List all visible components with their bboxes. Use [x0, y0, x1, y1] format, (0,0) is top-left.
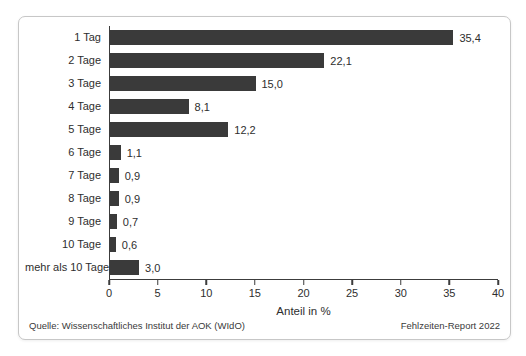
category-label: 3 Tage: [25, 72, 109, 95]
x-tick-label: 15: [249, 287, 261, 299]
bar-chart: 1 Tag35,42 Tage22,13 Tage15,04 Tage8,15 …: [19, 17, 510, 320]
x-tick: [449, 280, 451, 285]
axis-spacer: [25, 279, 109, 304]
bar-track: 3,0: [109, 256, 498, 279]
x-tick: [206, 280, 208, 285]
source-text: Quelle: Wissenschaftliches Institut der …: [29, 320, 245, 331]
bar-track: 22,1: [109, 49, 498, 72]
x-tick-label: 30: [395, 287, 407, 299]
bar: [110, 214, 117, 229]
x-tick: [303, 280, 305, 285]
value-label: 8,1: [195, 101, 210, 113]
x-tick-label: 40: [492, 287, 504, 299]
x-tick-label: 25: [346, 287, 358, 299]
category-label: mehr als 10 Tage: [25, 256, 109, 279]
value-label: 1,1: [127, 147, 142, 159]
bar-track: 0,6: [109, 233, 498, 256]
bar-rows: 1 Tag35,42 Tage22,13 Tage15,04 Tage8,15 …: [25, 26, 498, 279]
x-axis-title: Anteil in %: [109, 305, 498, 317]
bar: [110, 168, 119, 183]
x-tick: [157, 280, 159, 285]
category-label: 8 Tage: [25, 187, 109, 210]
x-axis: 0510152025303540: [109, 279, 498, 304]
x-axis-title-row: Anteil in %: [25, 304, 498, 317]
bar-track: 35,4: [109, 26, 498, 49]
category-label: 4 Tage: [25, 95, 109, 118]
value-label: 12,2: [234, 124, 255, 136]
bar-track: 15,0: [109, 72, 498, 95]
report-text: Fehlzeiten-Report 2022: [401, 320, 500, 331]
category-label: 9 Tage: [25, 210, 109, 233]
bar-track: 8,1: [109, 95, 498, 118]
x-tick: [254, 280, 256, 285]
x-tick: [400, 280, 402, 285]
category-label: 6 Tage: [25, 141, 109, 164]
x-tick: [497, 280, 499, 285]
bar-track: 1,1: [109, 141, 498, 164]
x-tick-label: 5: [155, 287, 161, 299]
bar-track: 0,7: [109, 210, 498, 233]
bar-track: 12,2: [109, 118, 498, 141]
value-label: 0,9: [125, 170, 140, 182]
x-axis-row: 0510152025303540: [25, 279, 498, 304]
value-label: 3,0: [145, 262, 160, 274]
category-label: 1 Tag: [25, 26, 109, 49]
x-tick-label: 35: [443, 287, 455, 299]
caption-bar: Quelle: Wissenschaftliches Institut der …: [19, 320, 510, 339]
bar: [110, 122, 228, 137]
bar-track: 0,9: [109, 187, 498, 210]
bar: [110, 30, 453, 45]
x-tick: [351, 280, 353, 285]
bar-track: 0,9: [109, 164, 498, 187]
value-label: 22,1: [330, 55, 351, 67]
bar: [110, 191, 119, 206]
value-label: 0,6: [122, 239, 137, 251]
value-label: 0,9: [125, 193, 140, 205]
bar: [110, 260, 139, 275]
bar: [110, 145, 121, 160]
chart-card: 1 Tag35,42 Tage22,13 Tage15,04 Tage8,15 …: [18, 16, 511, 340]
x-tick-label: 10: [200, 287, 212, 299]
bar: [110, 76, 256, 91]
bar: [110, 99, 189, 114]
value-label: 35,4: [459, 32, 480, 44]
bar: [110, 237, 116, 252]
category-label: 5 Tage: [25, 118, 109, 141]
category-label: 7 Tage: [25, 164, 109, 187]
bar: [110, 53, 324, 68]
category-label: 2 Tage: [25, 49, 109, 72]
x-tick: [108, 280, 110, 285]
x-tick-label: 0: [106, 287, 112, 299]
value-label: 0,7: [123, 216, 138, 228]
category-label: 10 Tage: [25, 233, 109, 256]
axis-spacer: [25, 304, 109, 317]
x-tick-label: 20: [297, 287, 309, 299]
value-label: 15,0: [262, 78, 283, 90]
